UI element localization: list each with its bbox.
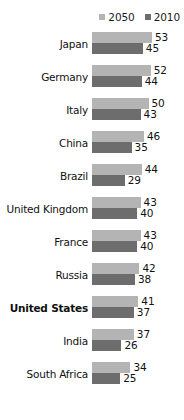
chart-row: Russia4238 xyxy=(0,259,184,292)
bar-group: 3425 xyxy=(92,358,184,391)
value-label-2010: 38 xyxy=(138,274,151,285)
category-label-united-states: United States xyxy=(0,292,88,325)
category-label-china: China xyxy=(0,127,88,160)
chart-row: France4340 xyxy=(0,226,184,259)
bar-group: 4635 xyxy=(92,127,184,160)
category-label-brazil: Brazil xyxy=(0,160,88,193)
chart-row: Italy5043 xyxy=(0,94,184,127)
bar-group: 3726 xyxy=(92,325,184,358)
legend-item-2050: 2050 xyxy=(99,12,134,23)
value-label-2010: 35 xyxy=(135,142,148,153)
category-label-japan: Japan xyxy=(0,28,88,61)
category-label-germany: Germany xyxy=(0,61,88,94)
bar-group: 4340 xyxy=(92,226,184,259)
legend-item-2010: 2010 xyxy=(145,12,180,23)
bar-2010[interactable] xyxy=(92,142,132,153)
bar-2050[interactable] xyxy=(92,65,151,76)
bar-2010[interactable] xyxy=(92,208,137,219)
bar-2050[interactable] xyxy=(92,197,141,208)
chart-row: Germany5244 xyxy=(0,61,184,94)
bar-2010[interactable] xyxy=(92,274,135,285)
bar-group: 4137 xyxy=(92,292,184,325)
chart-row: Brazil4429 xyxy=(0,160,184,193)
bar-2010[interactable] xyxy=(92,373,120,384)
bar-2050[interactable] xyxy=(92,32,152,43)
value-label-2010: 37 xyxy=(137,307,150,318)
bar-group: 4429 xyxy=(92,160,184,193)
bar-2010[interactable] xyxy=(92,307,134,318)
bar-2010[interactable] xyxy=(92,241,137,252)
value-label-2050: 37 xyxy=(137,329,150,340)
bar-group: 5244 xyxy=(92,61,184,94)
category-label-india: India xyxy=(0,325,88,358)
value-label-2010: 44 xyxy=(145,76,158,87)
category-label-united-kingdom: United Kingdom xyxy=(0,193,88,226)
bar-2010[interactable] xyxy=(92,43,143,54)
bar-2050[interactable] xyxy=(92,230,141,241)
bar-2050[interactable] xyxy=(92,296,138,307)
value-label-2010: 26 xyxy=(124,340,137,351)
population-aging-bar-chart: 2050 2010 Japan5345Germany5244Italy5043C… xyxy=(0,0,184,420)
category-label-russia: Russia xyxy=(0,259,88,292)
chart-row: United Kingdom4340 xyxy=(0,193,184,226)
category-label-france: France xyxy=(0,226,88,259)
bar-2010[interactable] xyxy=(92,76,142,87)
value-label-2010: 40 xyxy=(140,208,153,219)
bar-2050[interactable] xyxy=(92,263,139,274)
bar-2050[interactable] xyxy=(92,98,149,109)
bar-group: 5043 xyxy=(92,94,184,127)
value-label-2050: 44 xyxy=(145,164,158,175)
bar-2010[interactable] xyxy=(92,109,141,120)
bar-group: 4238 xyxy=(92,259,184,292)
legend-swatch-2010-icon xyxy=(145,14,151,20)
value-label-2010: 45 xyxy=(146,43,159,54)
value-label-2050: 46 xyxy=(147,131,160,142)
legend-label-2010: 2010 xyxy=(154,12,180,23)
value-label-2010: 25 xyxy=(123,373,136,384)
category-label-italy: Italy xyxy=(0,94,88,127)
value-label-2010: 40 xyxy=(140,241,153,252)
legend-label-2050: 2050 xyxy=(108,12,134,23)
chart-row: South Africa3425 xyxy=(0,358,184,391)
chart-legend: 2050 2010 xyxy=(0,9,184,25)
bar-2010[interactable] xyxy=(92,340,121,351)
bar-group: 4340 xyxy=(92,193,184,226)
chart-row: India3726 xyxy=(0,325,184,358)
chart-row: Japan5345 xyxy=(0,28,184,61)
value-label-2010: 29 xyxy=(128,175,141,186)
chart-row: China4635 xyxy=(0,127,184,160)
legend-swatch-2050-icon xyxy=(99,14,105,20)
bar-group: 5345 xyxy=(92,28,184,61)
chart-row: United States4137 xyxy=(0,292,184,325)
category-label-south-africa: South Africa xyxy=(0,358,88,391)
bar-2010[interactable] xyxy=(92,175,125,186)
value-label-2010: 43 xyxy=(144,109,157,120)
chart-plot-area: Japan5345Germany5244Italy5043China4635Br… xyxy=(0,28,184,418)
